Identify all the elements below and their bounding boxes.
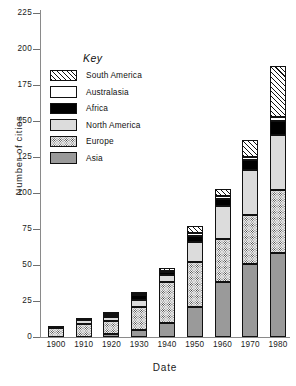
bar-segment-1950-northamerica [187,242,203,262]
legend-title: Key [83,52,170,64]
y-tick-150 [33,121,40,122]
bar-segment-1950-africa [187,236,203,242]
y-tick-25 [33,301,40,302]
y-tick-label-200: 200 [2,44,32,53]
legend-swatch-asia [50,152,77,164]
bar-segment-1940-southamerica [159,268,175,271]
bar-segment-1980-southamerica [270,66,286,116]
bar-segment-1980-northamerica [270,135,286,190]
legend: Key South AmericaAustralasiaAfricaNorth … [50,52,170,166]
bar-segment-1920-europe [103,321,119,334]
y-tick-175 [33,85,40,86]
x-axis-tick-labels: 190019101920193019401950196019701980 [40,340,290,354]
y-tick-label-0: 0 [2,332,32,341]
bar-segment-1940-asia [159,323,175,337]
bar-segment-1960-africa [215,199,231,206]
bar-segment-1970-europe [242,215,258,264]
y-tick-label-225: 225 [2,8,32,17]
legend-swatch-europe [50,136,77,148]
bar-segment-1980-europe [270,190,286,253]
legend-item-europe: Europe [50,133,170,150]
bar-segment-1930-africa [131,295,147,299]
legend-item-northamerica: North America [50,117,170,134]
bar-segment-1930-europe [131,307,147,330]
bar-segment-1950-europe [187,262,203,307]
bar-segment-1970-southamerica [242,140,258,157]
bar-segment-1900-europe [48,328,64,337]
bar-segment-1910-europe [76,324,92,337]
bar-segment-1970-africa [242,160,258,170]
x-axis-title: Date [40,362,290,373]
bar-segment-1960-northamerica [215,206,231,239]
bar-segment-1920-asia [103,334,119,337]
bar-segment-1980-africa [270,121,286,135]
legend-item-australasia: Australasia [50,84,170,101]
bar-segment-1970-asia [242,264,258,337]
legend-items: South AmericaAustralasiaAfricaNorth Amer… [50,67,170,166]
legend-item-southamerica: South America [50,67,170,84]
bar-segment-1910-northamerica [76,320,92,324]
bar-segment-1960-asia [215,282,231,337]
legend-swatch-africa [50,103,77,115]
y-tick-75 [33,229,40,230]
x-tick-label-1980: 1980 [262,340,294,349]
bar-segment-1980-asia [270,253,286,337]
bar-segment-1920-southamerica [103,312,119,314]
bar-segment-1960-southamerica [215,189,231,196]
legend-label-australasia: Australasia [86,87,129,97]
bar-segment-1920-northamerica [103,317,119,321]
bar-segment-1950-southamerica [187,226,203,233]
legend-label-southamerica: South America [86,70,142,80]
legend-label-africa: Africa [86,103,108,113]
y-tick-100 [33,193,40,194]
legend-swatch-australasia [50,86,77,98]
bar-segment-1940-europe [159,282,175,322]
y-tick-label-50: 50 [2,260,32,269]
bar-1950 [187,13,203,337]
stacked-bar-chart: 0255075100125150175200225 Number of citi… [0,0,296,386]
bar-1960 [215,13,231,337]
bar-segment-1940-africa [159,272,175,275]
legend-label-europe: Europe [86,136,114,146]
bar-segment-1960-europe [215,239,231,282]
bar-segment-1930-southamerica [131,292,147,294]
bar-segment-1930-asia [131,330,147,337]
bar-segment-1970-australasia [242,157,258,160]
x-axis-line [40,337,290,338]
bar-segment-1980-australasia [270,117,286,121]
y-tick-225 [33,13,40,14]
legend-swatch-northamerica [50,119,77,131]
legend-swatch-southamerica [50,70,77,82]
bar-segment-1940-northamerica [159,275,175,282]
bar-segment-1970-northamerica [242,170,258,215]
bar-1970 [242,13,258,337]
bar-segment-1960-australasia [215,196,231,199]
y-axis-title: Number of cities [13,86,24,226]
legend-label-northamerica: North America [86,120,141,130]
y-tick-50 [33,265,40,266]
y-tick-125 [33,157,40,158]
bar-segment-1900-northamerica [48,326,64,328]
y-tick-label-25: 25 [2,296,32,305]
legend-label-asia: Asia [86,153,103,163]
bar-segment-1910-africa [76,318,92,320]
bar-1980 [270,13,286,337]
legend-item-africa: Africa [50,100,170,117]
bar-segment-1930-northamerica [131,300,147,307]
y-tick-200 [33,49,40,50]
legend-item-asia: Asia [50,150,170,167]
bar-segment-1950-asia [187,307,203,337]
bar-segment-1950-australasia [187,233,203,236]
y-tick-0 [33,337,40,338]
